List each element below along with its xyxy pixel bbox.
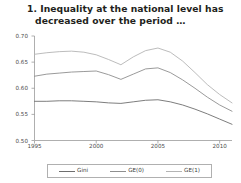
y-tick-label: 0.70 — [16, 33, 29, 39]
x-tick-label: 2005 — [151, 143, 166, 149]
legend-swatch-icon — [59, 171, 75, 172]
legend-entry[interactable]: Gini — [59, 168, 88, 174]
legend: GiniGE(0)GE(1) — [47, 164, 212, 178]
legend-entry[interactable]: GE(0) — [110, 168, 144, 174]
x-axis-tick-labels: 1995200020052010 — [27, 143, 227, 149]
x-tick-label: 2010 — [213, 143, 228, 149]
series-line-ge0 — [35, 68, 233, 111]
y-tick-label: 0.55 — [16, 111, 29, 117]
legend-swatch-icon — [166, 171, 182, 172]
legend-label: Gini — [77, 168, 88, 174]
x-axis-tick-marks — [35, 141, 220, 144]
series-line-gini — [35, 100, 233, 125]
legend-label: GE(0) — [128, 168, 144, 174]
data-series-group — [35, 48, 233, 124]
x-tick-label: 1995 — [27, 143, 42, 149]
y-tick-label: 0.65 — [16, 59, 29, 65]
x-tick-label: 2000 — [89, 143, 104, 149]
figure-panel: 1. Inequality at the national level has … — [0, 0, 241, 183]
plot-area: 0.700.650.600.550.50 1995200020052010 — [0, 0, 241, 183]
y-axis-tick-labels: 0.700.650.600.550.50 — [16, 33, 29, 144]
y-axis-tick-marks — [32, 36, 35, 141]
legend-entry[interactable]: GE(1) — [166, 168, 200, 174]
series-line-ge1 — [35, 48, 233, 103]
legend-swatch-icon — [110, 171, 126, 172]
legend-label: GE(1) — [184, 168, 200, 174]
y-tick-label: 0.60 — [16, 85, 29, 91]
